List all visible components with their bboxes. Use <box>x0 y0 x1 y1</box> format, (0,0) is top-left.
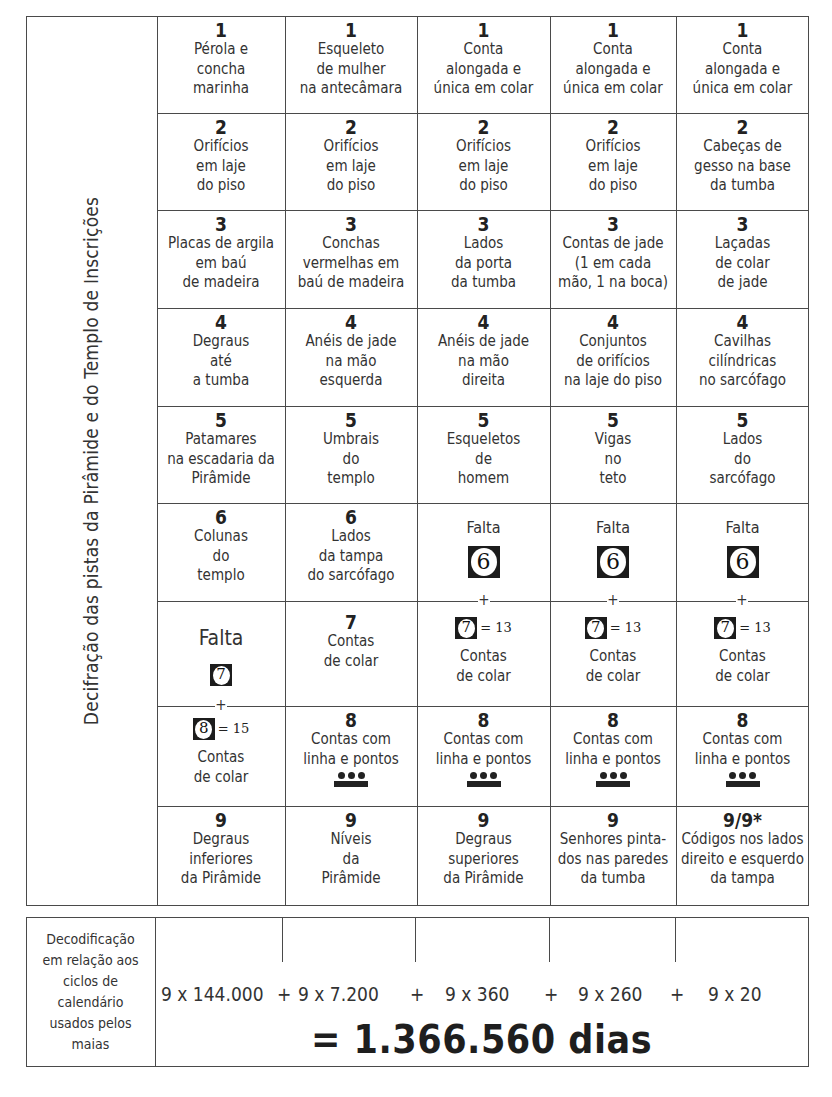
cell-r7-c3: 7 = 13 Contas de colar <box>417 601 550 706</box>
formula-operator: + <box>670 983 684 1005</box>
clue-description: Orifícios em laje do piso <box>324 137 379 196</box>
clue-description: Degraus superiores da Pirâmide <box>443 830 523 889</box>
formula-term: 9 x 260 <box>578 983 642 1005</box>
clue-description: Degraus até a tumba <box>193 332 250 391</box>
clue-number: 2 <box>215 118 227 137</box>
glyph-sum: = 13 <box>610 618 642 638</box>
clue-number: 6 <box>215 508 227 527</box>
glyph-7-icon: 7 <box>714 617 736 639</box>
clue-description: Cabeças de gesso na base da tumba <box>694 137 791 196</box>
clue-number: 1 <box>215 21 227 40</box>
maya-numeral-8-icon <box>726 772 760 787</box>
glyph-sum: = 13 <box>480 618 512 638</box>
cell-r3-c1: 3 Placas de argila em baú de madeira <box>157 210 285 308</box>
cell-r5-c5: 5 Lados do sarcófago <box>676 406 809 503</box>
cell-r7-c1: Falta 7 <box>157 601 285 706</box>
glyph-8-icon: 8 <box>193 718 215 740</box>
cell-r9-c1: 9 Degraus inferiores da Pirâmide <box>157 806 285 905</box>
missing-label: Falta <box>596 518 630 538</box>
clue-description: Níveis da Pirâmide <box>321 830 380 889</box>
glyph-7-icon: 7 <box>585 617 607 639</box>
cell-r1-c5: 1 Conta alongada e única em colar <box>676 16 809 113</box>
clue-description: Orifícios em laje do piso <box>456 137 511 196</box>
cell-r4-c3: 4 Anéis de jade na mão direita <box>417 308 550 406</box>
clue-number: 1 <box>607 21 619 40</box>
cell-r8-c4: 8 Contas com linha e pontos <box>550 706 676 806</box>
cell-r9-c5: 9/9* Códigos nos lados direito e esquerd… <box>676 806 809 905</box>
formula-operator: + <box>544 983 558 1005</box>
clue-description: Contas com linha e pontos <box>695 730 791 769</box>
decoding-label: Decodificação em relação aos ciclos de c… <box>26 917 155 1066</box>
clue-description: Pérola e concha marinha <box>193 40 249 99</box>
cell-r8-c3: 8 Contas com linha e pontos <box>417 706 550 806</box>
cell-r3-c5: 3 Laçadas de colar de jade <box>676 210 809 308</box>
clue-description: Patamares na escadaria da Pirâmide <box>167 430 275 489</box>
clue-description: Contas com linha e pontos <box>436 730 532 769</box>
cell-r2-c1: 2 Orifícios em laje do piso <box>157 113 285 210</box>
clue-description: Cavilhas cilíndricas no sarcófago <box>699 332 786 391</box>
clue-description: Contas com linha e pontos <box>303 730 399 769</box>
formula-operator: + <box>277 983 291 1005</box>
clue-number: 4 <box>215 313 227 332</box>
clue-number: 5 <box>345 411 357 430</box>
clue-number: 4 <box>478 313 490 332</box>
cell-r6-c3: Falta 6 <box>417 503 550 601</box>
clue-number: 8 <box>607 711 619 730</box>
clue-number: 9/9* <box>723 811 762 830</box>
cell-r7-c2: 7 Contas de colar <box>285 601 417 706</box>
clue-description: Contas de colar <box>194 748 248 787</box>
clue-number: 9 <box>215 811 227 830</box>
glyph-7-icon: 7 <box>210 664 232 686</box>
missing-label: Falta <box>466 518 500 538</box>
clue-number: 5 <box>737 411 749 430</box>
connector-tick <box>282 917 283 962</box>
cell-r1-c1: 1 Pérola e concha marinha <box>157 16 285 113</box>
formula-operator: + <box>410 983 424 1005</box>
cell-r3-c3: 3 Lados da porta da tumba <box>417 210 550 308</box>
clue-description: Códigos nos lados direito e esquerdo da … <box>681 830 804 889</box>
formula-term: 9 x 20 <box>708 983 762 1005</box>
clue-description: Lados da porta da tumba <box>451 234 516 293</box>
clue-number: 7 <box>345 613 357 632</box>
glyph-6-icon: 6 <box>468 546 500 578</box>
clue-number: 3 <box>737 215 749 234</box>
clue-description: Orifícios em laje do piso <box>586 137 641 196</box>
maya-numeral-8-icon <box>467 772 501 787</box>
clue-description: Lados da tampa do sarcófago <box>307 527 394 586</box>
cell-r4-c4: 4 Conjuntos de orifícios na laje do piso <box>550 308 676 406</box>
cell-r8-c1: 8 = 15 Contas de colar <box>157 706 285 806</box>
cell-r1-c3: 1 Conta alongada e única em colar <box>417 16 550 113</box>
clue-description: Umbrais do templo <box>323 430 379 489</box>
clue-description: Orifícios em laje do piso <box>194 137 249 196</box>
glyph-sum: = 13 <box>739 618 771 638</box>
missing-label: Falta <box>725 518 759 538</box>
cell-r9-c3: 9 Degraus superiores da Pirâmide <box>417 806 550 905</box>
clue-number: 3 <box>607 215 619 234</box>
formula-term: 9 x 144.000 <box>161 983 264 1005</box>
cell-r6-c5: Falta 6 <box>676 503 809 601</box>
clue-number: 8 <box>345 711 357 730</box>
clue-number: 3 <box>478 215 490 234</box>
cell-r8-c2: 8 Contas com linha e pontos <box>285 706 417 806</box>
clue-number: 1 <box>737 21 749 40</box>
clue-description: Conta alongada e única em colar <box>693 40 793 99</box>
maya-numeral-8-icon <box>596 772 630 787</box>
clue-number: 3 <box>345 215 357 234</box>
clue-description: Conchas vermelhas em baú de madeira <box>298 234 405 293</box>
clue-description: Placas de argila em baú de madeira <box>168 234 274 293</box>
side-label-text: Decifração das pistas da Pirâmide e do T… <box>81 196 103 724</box>
glyph-equation: 7 = 13 <box>585 617 642 639</box>
cell-r6-c1: 6 Colunas do templo <box>157 503 285 601</box>
side-label: Decifração das pistas da Pirâmide e do T… <box>26 16 157 905</box>
clue-description: Lados do sarcófago <box>709 430 775 489</box>
maya-numeral-8-icon <box>334 772 368 787</box>
clue-description: Conta alongada e única em colar <box>434 40 534 99</box>
formula-term: 9 x 7.200 <box>298 983 379 1005</box>
clue-description: Contas de colar <box>456 647 510 686</box>
formula-term: 9 x 360 <box>445 983 509 1005</box>
clue-description: Conjuntos de orifícios na laje do piso <box>564 332 662 391</box>
glyph-7-icon: 7 <box>455 617 477 639</box>
clue-number: 3 <box>215 215 227 234</box>
clue-number: 4 <box>607 313 619 332</box>
cell-r5-c2: 5 Umbrais do templo <box>285 406 417 503</box>
